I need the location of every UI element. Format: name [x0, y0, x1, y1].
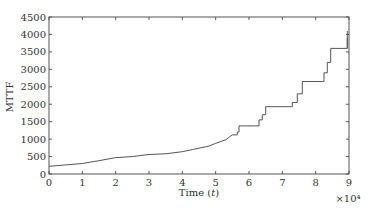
x-tick-label: 1 [79, 177, 85, 188]
x-tick-label: 6 [246, 177, 252, 188]
x-tick-label: 2 [112, 177, 118, 188]
y-tick-label: 2000 [21, 99, 46, 110]
y-axis-ticks: 050010001500200025003000350040004500 [21, 12, 349, 180]
mttf-chart: 050010001500200025003000350040004500 012… [0, 0, 369, 215]
x-tick-label: 7 [279, 177, 285, 188]
y-tick-label: 4000 [21, 29, 46, 40]
x-multiplier-label: ×10⁴ [335, 193, 360, 204]
y-tick-label: 2500 [21, 81, 46, 92]
y-tick-label: 1500 [21, 116, 46, 127]
x-tick-label: 3 [146, 177, 152, 188]
x-tick-label: 9 [346, 177, 352, 188]
y-axis-label: MTTF [4, 82, 15, 113]
y-tick-label: 500 [27, 151, 46, 162]
x-axis-label: Time (t) [179, 187, 219, 198]
y-tick-label: 4500 [21, 12, 46, 23]
x-tick-label: 8 [312, 177, 318, 188]
y-tick-label: 1000 [21, 134, 46, 145]
x-tick-label: 0 [46, 177, 52, 188]
mttf-series-line [49, 31, 347, 166]
y-tick-label: 3500 [21, 46, 46, 57]
plot-frame [49, 17, 349, 174]
y-tick-label: 3000 [21, 64, 46, 75]
